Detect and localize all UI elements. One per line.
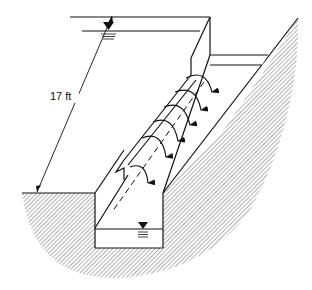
dimension-line <box>37 16 112 192</box>
dimension-arrow-bottom <box>36 185 41 192</box>
downstream-channel <box>95 229 163 248</box>
side-channel-spillway-diagram: 17 ft <box>0 0 312 290</box>
dimension-label: 17 ft <box>50 90 71 102</box>
